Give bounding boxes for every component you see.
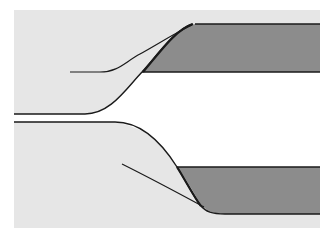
diagram-canvas <box>0 0 336 240</box>
